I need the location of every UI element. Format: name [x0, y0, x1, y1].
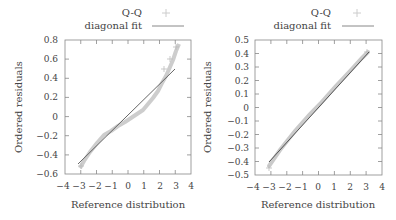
svg-text:−4: −4	[246, 182, 260, 192]
svg-text:−0.2: −0.2	[36, 131, 58, 141]
svg-text:4: 4	[188, 181, 194, 191]
y-axis-label: Ordered residuals	[202, 61, 213, 153]
left-chart: Q-Q diagonal fit 0.8 0.6 0.4 0.2 0 −0.2 …	[13, 7, 194, 210]
svg-text:−3: −3	[72, 181, 86, 191]
legend-qq-marker	[353, 9, 361, 17]
y-ticks	[65, 59, 191, 155]
svg-text:4: 4	[379, 182, 385, 192]
x-axis-label: Reference distribution	[261, 199, 376, 210]
svg-text:3: 3	[173, 181, 179, 191]
svg-text:0: 0	[315, 182, 321, 192]
svg-text:0.5: 0.5	[235, 35, 250, 45]
svg-text:0.1: 0.1	[235, 89, 249, 99]
x-tick-labels: −4 −3 −2 −1 0 1 2 3 4	[246, 182, 385, 192]
svg-text:0.8: 0.8	[44, 35, 59, 45]
svg-text:−0.4: −0.4	[36, 150, 58, 160]
svg-text:2: 2	[157, 181, 163, 191]
svg-text:0.2: 0.2	[235, 76, 249, 86]
figure: Q-Q diagonal fit 0.8 0.6 0.4 0.2 0 −0.2 …	[0, 0, 396, 220]
svg-text:−0.5: −0.5	[227, 170, 249, 180]
svg-text:0.6: 0.6	[44, 54, 59, 64]
right-chart: Q-Q diagonal fit 0.5 0.4 0.3 0.2 0.1 0 −…	[202, 7, 385, 210]
legend-qq-label: Q-Q	[122, 7, 142, 18]
y-axis-label: Ordered residuals	[13, 61, 24, 153]
x-axis-label: Reference distribution	[71, 199, 186, 210]
legend-fit-label: diagonal fit	[85, 20, 142, 31]
svg-text:0: 0	[243, 103, 249, 113]
svg-text:−0.6: −0.6	[36, 169, 58, 179]
svg-text:−2: −2	[88, 181, 101, 191]
svg-text:−0.3: −0.3	[227, 143, 249, 153]
svg-text:2: 2	[347, 182, 353, 192]
svg-text:−1: −1	[294, 182, 307, 192]
svg-text:0: 0	[125, 181, 131, 191]
y-tick-labels: 0.8 0.6 0.4 0.2 0 −0.2 −0.4 −0.6	[36, 35, 58, 179]
svg-text:0.4: 0.4	[235, 49, 250, 59]
svg-text:−0.2: −0.2	[227, 130, 249, 140]
y-tick-labels: 0.5 0.4 0.3 0.2 0.1 0 −0.1 −0.2 −0.3 −0.…	[227, 35, 249, 180]
svg-text:−3: −3	[262, 182, 276, 192]
x-ticks	[81, 40, 176, 174]
legend-fit-label: diagonal fit	[274, 20, 331, 31]
svg-text:1: 1	[331, 182, 337, 192]
svg-text:1: 1	[141, 181, 147, 191]
svg-text:0.2: 0.2	[44, 92, 58, 102]
svg-text:0.4: 0.4	[44, 73, 59, 83]
diagonal-fit-line	[269, 52, 369, 162]
svg-text:0.3: 0.3	[235, 62, 250, 72]
svg-text:3: 3	[363, 182, 369, 192]
svg-text:−1: −1	[104, 181, 117, 191]
svg-text:−0.1: −0.1	[227, 116, 249, 126]
svg-text:−4: −4	[56, 181, 70, 191]
diagonal-fit-line	[78, 69, 175, 164]
svg-text:0: 0	[52, 112, 58, 122]
qq-points	[80, 44, 179, 168]
legend-qq-label: Q-Q	[311, 7, 331, 18]
svg-text:−2: −2	[278, 182, 291, 192]
svg-text:−0.4: −0.4	[227, 157, 249, 167]
legend-qq-marker	[162, 9, 170, 17]
x-tick-labels: −4 −3 −2 −1 0 1 2 3 4	[56, 181, 194, 191]
